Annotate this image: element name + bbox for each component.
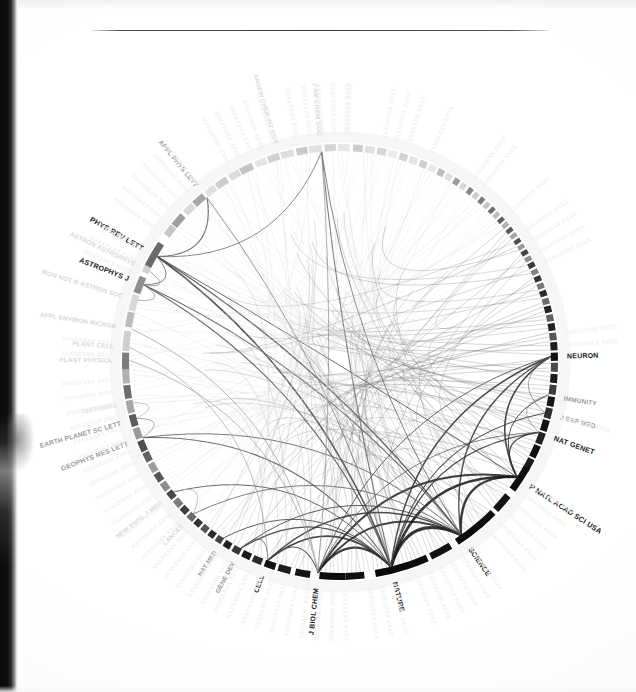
ring-segment[interactable] bbox=[540, 419, 550, 432]
ring-segment[interactable] bbox=[544, 407, 553, 419]
ring-segment[interactable] bbox=[241, 550, 252, 560]
ring-segment[interactable] bbox=[133, 427, 143, 440]
scan-artifact-left-fade bbox=[0, 0, 22, 692]
spoke-line bbox=[373, 219, 495, 294]
ring-segment[interactable] bbox=[520, 249, 529, 257]
ring-segment[interactable] bbox=[324, 144, 336, 151]
ring-segment[interactable] bbox=[252, 555, 264, 565]
spoke-line bbox=[251, 170, 326, 468]
ring-segment[interactable] bbox=[524, 255, 532, 263]
ring-segment[interactable] bbox=[546, 396, 555, 407]
ring-segment[interactable] bbox=[549, 332, 557, 340]
spoke-line bbox=[168, 240, 355, 392]
ring-segment[interactable] bbox=[295, 568, 311, 577]
ring-segment[interactable] bbox=[436, 168, 445, 177]
ring-segment[interactable] bbox=[387, 150, 397, 159]
ring-segment[interactable] bbox=[353, 144, 363, 152]
ring-segment[interactable] bbox=[122, 352, 129, 371]
ring-segment[interactable] bbox=[427, 163, 437, 173]
ring-segment[interactable] bbox=[548, 323, 556, 332]
ring-segment[interactable] bbox=[513, 238, 521, 246]
node-label[interactable]: NEURON bbox=[567, 352, 599, 360]
ring-segment[interactable] bbox=[129, 414, 139, 427]
ring-segment[interactable] bbox=[551, 363, 558, 372]
ring-segment[interactable] bbox=[418, 160, 428, 169]
ring-segment[interactable] bbox=[126, 400, 135, 414]
spoke-line bbox=[184, 220, 346, 396]
ring-segment[interactable] bbox=[319, 572, 346, 580]
spoke-line bbox=[345, 176, 439, 330]
ring-segment[interactable] bbox=[309, 145, 322, 153]
ring-segment[interactable] bbox=[231, 545, 242, 555]
ring-segment[interactable] bbox=[551, 352, 558, 360]
ring-segment[interactable] bbox=[546, 314, 554, 322]
ring-segment[interactable] bbox=[193, 518, 203, 528]
ring-segment[interactable] bbox=[408, 156, 418, 165]
spoke-line bbox=[285, 158, 304, 249]
spoke-line bbox=[284, 206, 483, 324]
chord-layer bbox=[129, 152, 551, 572]
ring-segment[interactable] bbox=[482, 201, 490, 209]
ring-segment[interactable] bbox=[459, 182, 468, 191]
ring-segment[interactable] bbox=[527, 261, 536, 269]
spoke-layer bbox=[129, 151, 551, 573]
ring-segment[interactable] bbox=[505, 227, 513, 235]
ring-segment[interactable] bbox=[542, 298, 550, 306]
ring-segment[interactable] bbox=[346, 572, 365, 580]
spoke-line bbox=[298, 155, 371, 258]
ring-segment[interactable] bbox=[267, 153, 281, 163]
spoke-line bbox=[131, 353, 256, 391]
scanned-page: PHYS REV LETTAPPL PHYS LETTANGEW CHEM IN… bbox=[0, 0, 636, 692]
ring-segment[interactable] bbox=[223, 540, 233, 550]
ring-segment[interactable] bbox=[122, 331, 131, 352]
ring-segment[interactable] bbox=[530, 268, 539, 276]
spoke-line bbox=[133, 321, 270, 439]
ring-segment[interactable] bbox=[466, 187, 474, 196]
ring-segment[interactable] bbox=[377, 147, 387, 156]
ring-segment[interactable] bbox=[471, 191, 479, 200]
spoke-line bbox=[376, 374, 545, 411]
spoke-line bbox=[168, 328, 336, 484]
spoke-line bbox=[188, 316, 353, 508]
ring-segment[interactable] bbox=[550, 374, 558, 383]
ring-segment[interactable] bbox=[549, 384, 557, 395]
ring-segment[interactable] bbox=[264, 560, 277, 570]
ring-segment[interactable] bbox=[539, 290, 548, 298]
spoke-line bbox=[388, 254, 522, 503]
spoke-line bbox=[130, 355, 244, 378]
ring-segment[interactable] bbox=[550, 342, 558, 351]
ring-segment[interactable] bbox=[544, 305, 552, 313]
scan-edge-bottom bbox=[0, 686, 636, 692]
ring-segment[interactable] bbox=[488, 206, 496, 214]
ring-segment[interactable] bbox=[509, 232, 517, 240]
ring-segment[interactable] bbox=[365, 145, 376, 153]
spoke-line bbox=[211, 301, 300, 529]
ring-segment[interactable] bbox=[399, 153, 409, 162]
ring-segment[interactable] bbox=[280, 149, 294, 159]
spoke-line bbox=[259, 162, 285, 268]
ring-segment[interactable] bbox=[122, 369, 130, 384]
ring-segment[interactable] bbox=[501, 221, 509, 229]
ring-segment[interactable] bbox=[497, 216, 505, 224]
spoke-line bbox=[210, 270, 529, 354]
spoke-line bbox=[251, 153, 311, 302]
ring-segment[interactable] bbox=[277, 564, 291, 574]
spoke-line bbox=[215, 431, 334, 531]
spoke-line bbox=[173, 233, 343, 332]
ring-segment[interactable] bbox=[444, 172, 453, 181]
ring-segment[interactable] bbox=[452, 177, 461, 186]
ring-segment[interactable] bbox=[517, 243, 525, 251]
ring-segment[interactable] bbox=[536, 282, 545, 290]
ring-segment[interactable] bbox=[338, 144, 350, 151]
scan-artifact-smudge bbox=[8, 414, 34, 470]
ring-segment[interactable] bbox=[492, 211, 500, 219]
